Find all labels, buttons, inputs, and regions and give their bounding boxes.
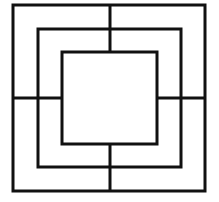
morris-board (0, 0, 219, 202)
inner-square (62, 52, 157, 144)
